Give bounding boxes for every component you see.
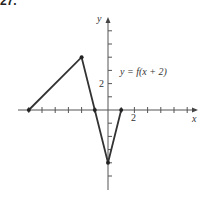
data-point [80,55,84,59]
graph: x y 2 2 y = f(x + 2) [0,0,210,197]
x-tick-label: 2 [131,112,136,123]
x-axis-label: x [191,113,197,124]
x-axis-arrow-icon [192,108,198,113]
data-point [93,108,97,112]
function-label: y = f(x + 2) [119,66,167,78]
y-axis-label: y [96,13,102,24]
data-point [119,108,123,112]
y-tick-label: 2 [99,78,104,89]
data-point [27,108,31,112]
y-axis-arrow-icon [106,17,111,23]
data-point [106,161,110,165]
